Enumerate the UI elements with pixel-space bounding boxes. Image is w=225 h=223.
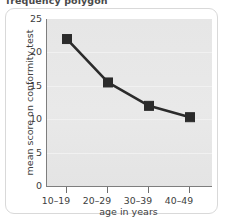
data-point-marker [186,113,195,122]
plot-area [46,19,212,187]
y-tick-label: 5 [24,148,42,158]
x-tick-mark [148,187,149,193]
y-tick-label: 10 [24,114,42,124]
figure-page: frequency polygon mean score on conformi… [0,0,225,223]
y-tick-label: 25 [24,14,42,24]
x-tick-label: 40–49 [156,195,202,206]
y-tick-label: 15 [24,81,42,91]
x-tick-mark [107,187,108,193]
y-tick-label: 20 [24,47,42,57]
line-chart: mean score on conformity test 25 20 15 1… [0,0,225,223]
x-tick-label: 30–39 [115,195,161,206]
data-series-svg [47,19,212,186]
x-axis-title: age in years [46,206,211,217]
y-tick-label: 0 [24,181,42,191]
x-tick-mark [189,187,190,193]
x-tick-label: 20–29 [74,195,120,206]
series-markers [63,35,195,122]
x-tick-mark [66,187,67,193]
x-tick-label: 10–19 [33,195,79,206]
series-line [67,39,190,117]
data-point-marker [104,78,113,87]
data-point-marker [63,35,72,44]
y-axis-tick-labels: 25 20 15 10 5 0 [22,0,42,223]
data-point-marker [145,101,154,110]
